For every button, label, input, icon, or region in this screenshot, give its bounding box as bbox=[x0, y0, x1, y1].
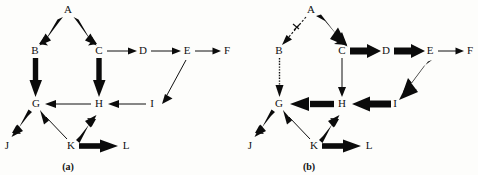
node-b-panel-a[interactable]: B bbox=[31, 44, 38, 56]
node-k-panel-b[interactable]: K bbox=[310, 139, 318, 151]
edge-e-f bbox=[438, 48, 464, 55]
node-e-panel-b[interactable]: E bbox=[427, 44, 434, 56]
panel-b: A B C D E F G H I J K L (b) bbox=[248, 3, 473, 173]
edge-k-g bbox=[40, 110, 67, 139]
node-c-panel-b[interactable]: C bbox=[338, 44, 345, 56]
edge-h-g bbox=[290, 97, 334, 111]
edge-k-h bbox=[319, 115, 340, 143]
node-i-panel-a[interactable]: I bbox=[150, 97, 154, 109]
graph-figure-svg: A B C D E F G H I J K L (a) bbox=[0, 0, 478, 175]
edge-a-b bbox=[39, 17, 63, 46]
edge-k-l bbox=[79, 140, 118, 153]
edge-c-h bbox=[338, 58, 346, 97]
edge-k-l bbox=[322, 140, 361, 153]
node-j-panel-a[interactable]: J bbox=[5, 139, 10, 151]
panel-b-caption: (b) bbox=[303, 161, 315, 173]
node-j-panel-b[interactable]: J bbox=[248, 139, 253, 151]
node-h-panel-a[interactable]: H bbox=[95, 97, 103, 109]
edge-k-h bbox=[76, 115, 97, 143]
edge-k-g bbox=[283, 110, 310, 139]
node-i-panel-b[interactable]: I bbox=[393, 97, 397, 109]
edge-e-f bbox=[195, 48, 221, 55]
node-a-panel-b[interactable]: A bbox=[307, 3, 315, 15]
node-f-panel-b[interactable]: F bbox=[467, 44, 473, 56]
edge-g-j bbox=[255, 110, 276, 138]
edge-e-i bbox=[162, 60, 186, 104]
node-k-panel-a[interactable]: K bbox=[67, 139, 75, 151]
node-e-panel-a[interactable]: E bbox=[184, 44, 191, 56]
node-g-panel-b[interactable]: G bbox=[275, 97, 283, 109]
edge-i-h bbox=[352, 97, 391, 112]
panel-a: A B C D E F G H I J K L (a) bbox=[5, 3, 230, 173]
edge-c-h bbox=[93, 58, 106, 97]
edge-d-e bbox=[394, 44, 425, 58]
node-h-panel-b[interactable]: H bbox=[338, 97, 346, 109]
edge-c-d bbox=[350, 44, 381, 58]
node-l-panel-b[interactable]: L bbox=[366, 139, 373, 151]
node-c-panel-a[interactable]: C bbox=[95, 44, 102, 56]
edge-b-g-dotted bbox=[276, 58, 284, 97]
panel-a-caption: (a) bbox=[62, 161, 74, 173]
node-a-panel-a[interactable]: A bbox=[64, 3, 72, 15]
figure-container: A B C D E F G H I J K L (a) bbox=[0, 0, 478, 175]
edge-g-j bbox=[12, 110, 33, 138]
edge-a-c bbox=[316, 15, 348, 47]
node-g-panel-a[interactable]: G bbox=[32, 97, 40, 109]
edge-i-h bbox=[108, 100, 146, 108]
node-l-panel-a[interactable]: L bbox=[123, 139, 130, 151]
node-f-panel-a[interactable]: F bbox=[224, 44, 230, 56]
edge-d-e bbox=[151, 48, 181, 55]
edge-c-d bbox=[107, 48, 137, 55]
edge-a-c bbox=[74, 17, 98, 46]
edge-a-b-blocked bbox=[282, 17, 306, 45]
edge-e-i bbox=[399, 60, 432, 100]
node-d-panel-b[interactable]: D bbox=[382, 44, 390, 56]
node-d-panel-a[interactable]: D bbox=[139, 44, 147, 56]
edge-h-g bbox=[45, 100, 91, 108]
edge-b-g bbox=[30, 58, 43, 97]
node-b-panel-b[interactable]: B bbox=[275, 44, 282, 56]
